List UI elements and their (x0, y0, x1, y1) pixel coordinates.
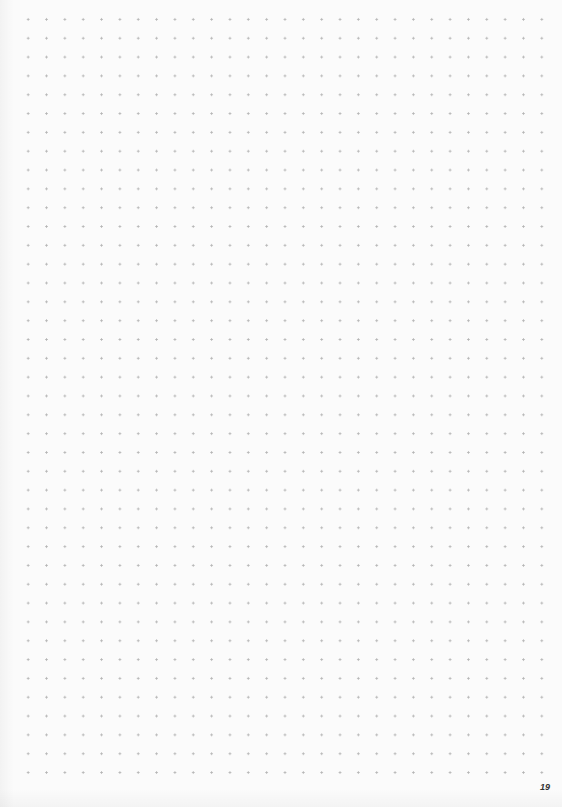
dot-grid-pattern (19, 10, 555, 786)
notebook-page: 19 (0, 0, 562, 807)
page-number: 19 (540, 782, 550, 792)
